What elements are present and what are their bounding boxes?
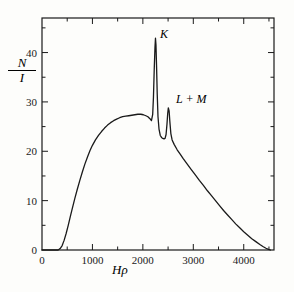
svg-text:0: 0 [39,254,45,266]
lm-peak-label: L + M [176,92,207,107]
y-axis-label: N I [8,56,36,84]
x-axis-label: Hρ [112,262,128,278]
figure-container: 01000200030004000 010203040 N I Hρ K L +… [0,0,294,292]
svg-text:2000: 2000 [132,254,155,266]
svg-text:20: 20 [26,145,38,157]
plot-frame [42,18,274,250]
data-curve [42,38,270,250]
k-peak-label: K [160,27,168,42]
y-axis-label-denominator: I [8,71,36,85]
svg-text:0: 0 [32,244,38,256]
y-axis-label-numerator: N [8,56,36,71]
axis-ticks [42,18,274,250]
x-tick-labels: 01000200030004000 [39,254,255,266]
spectrum-chart: 01000200030004000 010203040 [0,0,294,292]
svg-text:30: 30 [26,96,38,108]
svg-text:4000: 4000 [233,254,256,266]
svg-text:1000: 1000 [81,254,104,266]
svg-text:10: 10 [26,195,38,207]
svg-text:3000: 3000 [182,254,205,266]
